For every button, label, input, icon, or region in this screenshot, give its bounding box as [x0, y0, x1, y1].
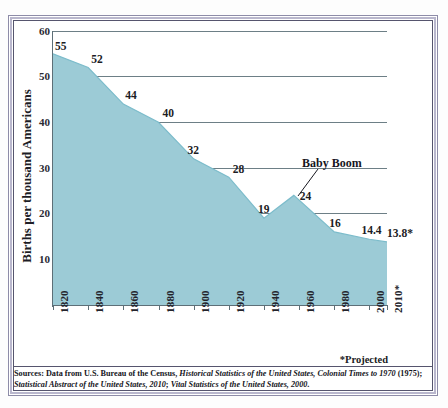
x-tick-mark-1980 — [334, 305, 335, 310]
y-tick-label-60: 60 — [4, 26, 50, 37]
sources-line-2: Statistical Abstract of the United State… — [14, 380, 432, 391]
x-tick-mark-1960 — [299, 305, 300, 310]
sources-line1-prefix: Sources: Data from U.S. Bureau of the Ce… — [14, 369, 179, 378]
x-tick-label-1900: 1900 — [199, 290, 211, 313]
y-tick-label-10: 10 — [4, 254, 50, 265]
data-label-28: 28 — [233, 164, 245, 176]
x-tick-label-1880: 1880 — [164, 290, 176, 313]
y-tick-label-40: 40 — [4, 117, 50, 128]
x-tick-label-2010star: 2010* — [392, 285, 404, 314]
sources-line2-title-b: Vital Statistics of the United States, 2… — [171, 380, 308, 389]
data-label-19: 19 — [258, 204, 270, 216]
x-tick-label-1980: 1980 — [339, 290, 351, 313]
sources-line1-title: Historical Statistics of the United Stat… — [179, 369, 395, 378]
data-label-44: 44 — [125, 90, 137, 102]
y-tick-label-50: 50 — [4, 71, 50, 82]
x-tick-mark-1940 — [264, 305, 265, 310]
x-tick-label-1960: 1960 — [304, 290, 316, 313]
sources-line-1: Sources: Data from U.S. Bureau of the Ce… — [14, 369, 432, 380]
x-tick-label-1820: 1820 — [58, 290, 70, 313]
annotation-leader-line — [296, 168, 320, 198]
x-tick-label-1860: 1860 — [128, 290, 140, 313]
data-label-55: 55 — [55, 41, 67, 53]
sources-citation: Sources: Data from U.S. Bureau of the Ce… — [14, 366, 432, 390]
sources-line1-suffix: (1975); — [396, 369, 423, 378]
x-tick-label-1840: 1840 — [93, 290, 105, 313]
y-tick-label-20: 20 — [4, 208, 50, 219]
x-tick-mark-2010star — [387, 305, 388, 310]
x-tick-mark-1820 — [53, 305, 54, 310]
y-axis-line — [52, 31, 53, 307]
sources-line2-end: . — [307, 380, 309, 389]
x-tick-mark-1900 — [194, 305, 195, 310]
data-label-40: 40 — [163, 108, 175, 120]
x-tick-mark-2000 — [369, 305, 370, 310]
projected-footnote: *Projected — [300, 354, 388, 365]
x-tick-label-2000: 2000 — [374, 290, 386, 313]
sources-line2-title-a: Statistical Abstract of the United State… — [14, 380, 166, 389]
data-label-32: 32 — [188, 145, 200, 157]
figure-birth-rate-chart: Births per thousand Americans 60 50 40 3… — [0, 0, 448, 408]
data-label-16: 16 — [329, 218, 341, 230]
y-axis-tick-labels: 60 50 40 30 20 10 — [0, 0, 50, 408]
x-tick-mark-1880 — [159, 305, 160, 310]
data-label-13-8star: 13.8* — [387, 228, 413, 240]
y-tick-label-30: 30 — [4, 163, 50, 174]
data-label-14-4: 14.4 — [361, 225, 381, 237]
x-tick-mark-1920 — [229, 305, 230, 310]
x-tick-label-1920: 1920 — [234, 290, 246, 313]
x-tick-mark-1860 — [123, 305, 124, 310]
x-tick-mark-1840 — [88, 305, 89, 310]
x-tick-label-1940: 1940 — [269, 290, 281, 313]
data-label-52: 52 — [91, 54, 103, 66]
